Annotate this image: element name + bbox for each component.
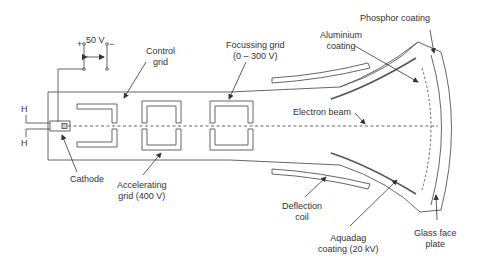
voltage-supply	[58, 43, 108, 122]
aluminium-coating-line	[422, 68, 431, 190]
deflection-coil-bottom	[272, 169, 370, 189]
glass-face-plate-label: Glass face plate	[414, 228, 457, 250]
aluminium-coating-label: Aluminium coating	[320, 30, 362, 52]
electron-beam-label: Electron beam	[293, 107, 351, 118]
voltage-label: 50 V	[86, 35, 105, 46]
plus-label: +	[77, 39, 82, 50]
heater-label-bottom: H	[21, 138, 28, 149]
deflection-coil-label: Deflection coil	[282, 201, 322, 223]
cathode-label: Cathode	[70, 174, 104, 185]
minus-label: −	[109, 39, 114, 50]
accelerating-grid-label: Accelerating grid (400 V)	[117, 180, 167, 202]
accelerating-grid	[142, 101, 181, 150]
aquadag-bottom	[331, 153, 416, 194]
focussing-grid	[210, 101, 253, 150]
focussing-grid-label: Focussing grid (0 – 300 V)	[226, 40, 285, 62]
control-grid-label: Control grid	[146, 46, 175, 68]
phosphor-coating-label: Phosphor coating	[360, 13, 430, 24]
heater-label-top: H	[21, 104, 28, 115]
aquadag-top	[331, 58, 416, 99]
face-plate-inner	[431, 55, 442, 205]
crt-diagram: 50 V + − Control grid Focussing grid (0 …	[0, 0, 482, 268]
control-grid	[77, 104, 117, 147]
aquadag-coating-label: Aquadag coating (20 kV)	[318, 233, 379, 255]
deflection-coil-top	[272, 63, 370, 83]
